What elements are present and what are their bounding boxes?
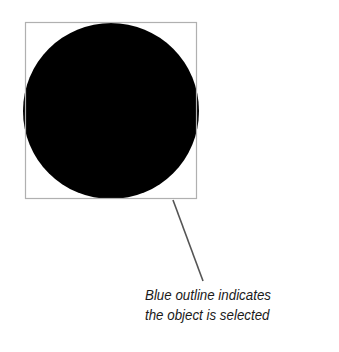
leader-line: [173, 200, 203, 281]
caption-line-1: Blue outline indicates: [145, 285, 308, 305]
caption-line-2: the object is selected: [145, 305, 308, 325]
callout-caption: Blue outline indicates the object is sel…: [145, 285, 308, 325]
selected-circle-object[interactable]: [23, 23, 199, 199]
